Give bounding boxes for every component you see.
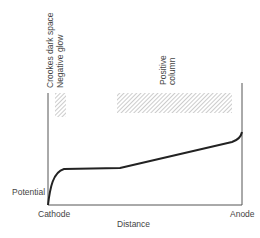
distance-label: Distance bbox=[117, 219, 150, 229]
potential-curve bbox=[48, 132, 242, 205]
glow-discharge-diagram: Crookes dark space Negative glow Positiv… bbox=[0, 0, 260, 238]
negative-glow-region bbox=[55, 93, 66, 117]
negative-glow-label: Negative glow bbox=[55, 34, 65, 88]
crookes-dark-space-label: Crookes dark space bbox=[45, 12, 55, 88]
potential-label: Potential bbox=[12, 187, 45, 197]
positive-column-region bbox=[117, 93, 232, 113]
positive-column-label-2: column bbox=[167, 57, 177, 85]
cathode-label: Cathode bbox=[38, 209, 70, 219]
anode-label: Anode bbox=[230, 209, 255, 219]
